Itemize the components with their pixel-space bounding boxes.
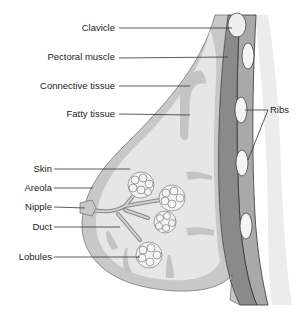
label-pectoral-muscle: Pectoral muscle bbox=[47, 51, 115, 62]
label-fatty-tissue: Fatty tissue bbox=[66, 108, 115, 119]
label-areola: Areola bbox=[25, 182, 52, 193]
label-lobules: Lobules bbox=[19, 251, 52, 262]
label-skin: Skin bbox=[34, 163, 52, 174]
rib-3 bbox=[236, 150, 248, 176]
rib-1 bbox=[242, 43, 254, 69]
clavicle-bone bbox=[228, 13, 246, 37]
label-clavicle: Clavicle bbox=[82, 22, 115, 33]
label-duct: Duct bbox=[32, 221, 52, 232]
rib-4 bbox=[240, 213, 252, 239]
label-nipple: Nipple bbox=[25, 201, 52, 212]
lobule-4 bbox=[136, 242, 162, 268]
lobule-1 bbox=[128, 172, 154, 198]
label-ribs: Ribs bbox=[270, 104, 289, 115]
breast-anatomy-illustration bbox=[0, 0, 306, 316]
lobule-2 bbox=[159, 185, 185, 211]
label-connective-tissue: Connective tissue bbox=[40, 80, 115, 91]
chest-wall-shadow bbox=[255, 15, 292, 305]
lobule-3 bbox=[154, 211, 176, 233]
